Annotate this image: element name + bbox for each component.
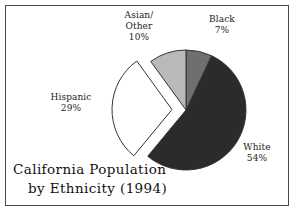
pie-label-white-name: White <box>232 142 282 153</box>
pie-label-hispanic: Hispanic 29% <box>36 92 106 114</box>
pie-label-white: White 54% <box>232 142 282 164</box>
chart-title-line2: by Ethnicity (1994) <box>13 179 213 198</box>
chart-figure: Asian/ Other 10% Black 7% Hispanic 29% W… <box>0 0 295 212</box>
pie-label-hispanic-value: 29% <box>36 103 106 114</box>
pie-label-asian-other-name-line2: Other <box>108 21 170 32</box>
pie-label-black: Black 7% <box>194 14 250 36</box>
pie-label-asian-other-value: 10% <box>108 32 170 43</box>
chart-title: California Population by Ethnicity (1994… <box>13 160 213 198</box>
chart-title-line1: California Population <box>13 160 213 179</box>
pie-label-black-value: 7% <box>194 25 250 36</box>
pie-label-asian-other-name-line1: Asian/ <box>108 10 170 21</box>
pie-label-black-name: Black <box>194 14 250 25</box>
pie-label-asian-other: Asian/ Other 10% <box>108 10 170 43</box>
pie-label-hispanic-name: Hispanic <box>36 92 106 103</box>
pie-label-white-value: 54% <box>232 153 282 164</box>
